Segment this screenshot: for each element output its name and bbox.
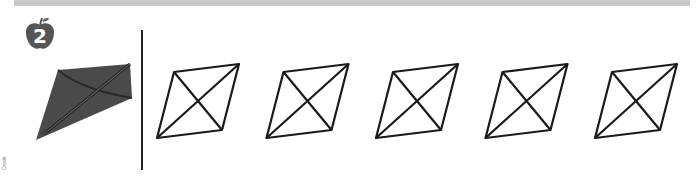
side-credit: Credit xyxy=(1,140,7,170)
rhombus-shape xyxy=(376,64,458,138)
rhombus-shape xyxy=(595,64,677,138)
rhombus-shape xyxy=(486,64,568,138)
rhombus-shape xyxy=(157,64,239,138)
shapes-row xyxy=(0,0,698,179)
rhombus-shape xyxy=(267,64,349,138)
